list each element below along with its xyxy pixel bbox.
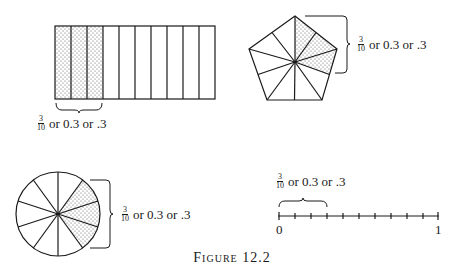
equivalents-text: or 0.3 or .3 — [369, 37, 426, 53]
equivalents-text: or 0.3 or .3 — [133, 207, 190, 223]
brace-number-line — [279, 198, 327, 207]
shaded-sectors — [58, 180, 100, 248]
fraction-three-tenths: 3 10 — [357, 36, 365, 53]
pentagon-model — [249, 16, 350, 100]
number-line-end-label: 1 — [435, 222, 442, 238]
rectangle-model — [55, 26, 215, 113]
label-rectangle: 3 10 or 0.3 or .3 — [37, 115, 106, 132]
fraction-three-tenths: 3 10 — [37, 115, 45, 132]
circle-model — [16, 172, 113, 256]
equivalents-text: or 0.3 or .3 — [288, 174, 345, 190]
fraction-three-tenths: 3 10 — [276, 173, 284, 190]
equivalents-text: or 0.3 or .3 — [49, 116, 106, 132]
label-number-line: 3 10 or 0.3 or .3 — [276, 173, 345, 190]
label-circle: 3 10 or 0.3 or .3 — [121, 206, 190, 223]
brace-rectangle — [56, 103, 102, 113]
figure-caption: Figure 12.2 — [0, 250, 464, 266]
shaded-wedges — [295, 16, 337, 75]
shaded-strips — [55, 26, 103, 99]
label-pentagon: 3 10 or 0.3 or .3 — [357, 36, 426, 53]
fraction-three-tenths: 3 10 — [121, 206, 129, 223]
number-line-start-label: 0 — [276, 222, 283, 238]
number-line-model — [278, 198, 439, 220]
